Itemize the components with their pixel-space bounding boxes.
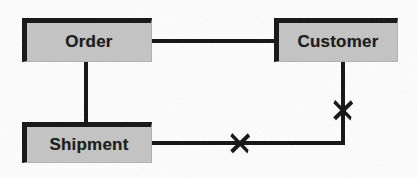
connector-order-customer xyxy=(152,39,274,43)
diagram-canvas: Order Customer Shipment xyxy=(0,0,417,178)
entity-label-shipment: Shipment xyxy=(49,135,128,155)
entity-box-order[interactable]: Order xyxy=(22,18,152,62)
entity-label-customer: Customer xyxy=(298,32,379,52)
connector-order-shipment xyxy=(84,62,88,122)
cross-mark-icon-customer-shipment xyxy=(329,96,357,124)
entity-box-shipment[interactable]: Shipment xyxy=(22,122,152,163)
entity-box-customer[interactable]: Customer xyxy=(274,18,398,62)
entity-label-order: Order xyxy=(65,32,112,52)
cross-mark-icon-shipment-customer xyxy=(226,129,254,157)
